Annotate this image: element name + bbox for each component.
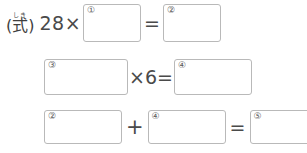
answer-box-2-repeat[interactable]: ② [44,110,122,144]
box-number-2-repeat: ② [48,112,56,121]
equals-sign-row3: = [230,116,246,138]
box-number-1: ① [87,6,95,15]
multiplicand-28: 28× [39,12,81,34]
answer-box-3[interactable]: ③ [44,59,128,95]
equals-sign-row1: = [144,12,160,34]
answer-box-5[interactable]: ⑤ [250,110,307,144]
shiki-text: (式) [6,18,34,34]
answer-box-4[interactable]: ④ [174,59,252,95]
shiki-label: しき (式) [6,12,34,34]
times-six-equals: ×6= [129,66,173,88]
answer-box-1[interactable]: ① [83,4,141,42]
equation-row-1: しき (式) 28× ① = ② [6,4,221,42]
equation-row-2: ③ ×6= ④ [44,59,252,95]
worksheet-page: しき (式) 28× ① = ② ③ ×6= ④ ② + ④ = [0,0,307,153]
box-number-3: ③ [48,61,56,70]
box-number-5: ⑤ [254,112,262,121]
plus-sign: + [126,115,144,139]
box-number-4: ④ [178,61,186,70]
equation-row-3: ② + ④ = ⑤ [44,110,307,144]
answer-box-4-repeat[interactable]: ④ [148,110,226,144]
box-number-2: ② [167,6,175,15]
box-number-4-repeat: ④ [152,112,160,121]
answer-box-2[interactable]: ② [163,4,221,42]
